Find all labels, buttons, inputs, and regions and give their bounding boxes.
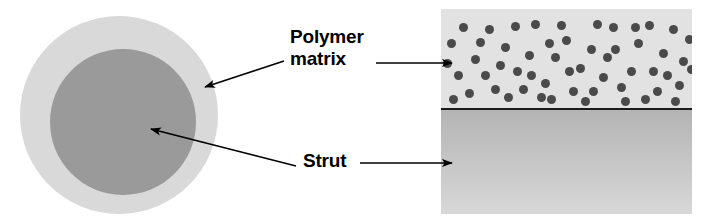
slab-strut-layer bbox=[441, 110, 692, 214]
matrix-particle bbox=[449, 95, 458, 104]
matrix-particle bbox=[685, 35, 692, 44]
matrix-particle bbox=[576, 64, 585, 73]
matrix-particle bbox=[669, 25, 678, 34]
matrix-particle bbox=[645, 21, 654, 30]
matrix-particle bbox=[627, 67, 636, 76]
matrix-particle bbox=[443, 59, 452, 68]
label-polymer-matrix: Polymer matrix bbox=[290, 26, 364, 69]
matrix-particle bbox=[631, 23, 640, 32]
matrix-particle bbox=[589, 87, 598, 96]
matrix-particle bbox=[611, 45, 620, 54]
matrix-particle bbox=[675, 81, 684, 90]
matrix-particle bbox=[569, 87, 578, 96]
matrix-particle bbox=[519, 85, 528, 94]
matrix-particle bbox=[649, 67, 658, 76]
matrix-particle bbox=[562, 36, 571, 45]
matrix-particle bbox=[537, 93, 546, 102]
matrix-particle bbox=[496, 61, 505, 70]
inner-core-strut bbox=[50, 49, 196, 195]
matrix-particle bbox=[679, 57, 688, 66]
matrix-particle bbox=[609, 23, 618, 32]
matrix-particle bbox=[621, 97, 630, 106]
matrix-particle bbox=[465, 89, 474, 98]
matrix-particle bbox=[671, 97, 680, 106]
figure-container: Polymer matrix Strut bbox=[0, 0, 702, 224]
slab-polymer-matrix-layer bbox=[441, 9, 692, 109]
matrix-particle bbox=[659, 49, 668, 58]
matrix-particle bbox=[476, 38, 485, 47]
matrix-particle bbox=[447, 39, 456, 48]
matrix-particle bbox=[459, 23, 468, 32]
matrix-particle bbox=[481, 71, 490, 80]
matrix-particle bbox=[485, 25, 494, 34]
matrix-particle bbox=[565, 67, 574, 76]
matrix-particle bbox=[545, 39, 554, 48]
matrix-particle bbox=[587, 45, 596, 54]
matrix-particle bbox=[513, 67, 522, 76]
matrix-particle bbox=[547, 95, 556, 104]
matrix-particle bbox=[525, 51, 534, 60]
matrix-particle bbox=[541, 79, 550, 88]
matrix-particle bbox=[641, 95, 650, 104]
cross-section-diagram bbox=[20, 16, 218, 214]
matrix-particle bbox=[504, 93, 513, 102]
matrix-particle bbox=[511, 22, 520, 31]
slab-detail-diagram bbox=[441, 9, 692, 214]
matrix-particle bbox=[603, 53, 612, 62]
matrix-particle bbox=[551, 53, 560, 62]
matrix-particle bbox=[491, 85, 500, 94]
matrix-particle bbox=[653, 87, 662, 96]
matrix-particle bbox=[454, 71, 463, 80]
matrix-particle bbox=[593, 20, 602, 29]
matrix-particle bbox=[531, 20, 540, 29]
matrix-particle bbox=[501, 43, 510, 52]
matrix-particle bbox=[557, 21, 566, 30]
label-strut: Strut bbox=[303, 150, 346, 172]
matrix-particle bbox=[617, 83, 626, 92]
matrix-particle bbox=[687, 65, 692, 74]
matrix-particle bbox=[599, 73, 608, 82]
matrix-particle bbox=[471, 55, 480, 64]
matrix-particle bbox=[527, 71, 536, 80]
matrix-particle bbox=[663, 71, 672, 80]
matrix-particle bbox=[581, 97, 590, 106]
matrix-particle bbox=[634, 39, 643, 48]
